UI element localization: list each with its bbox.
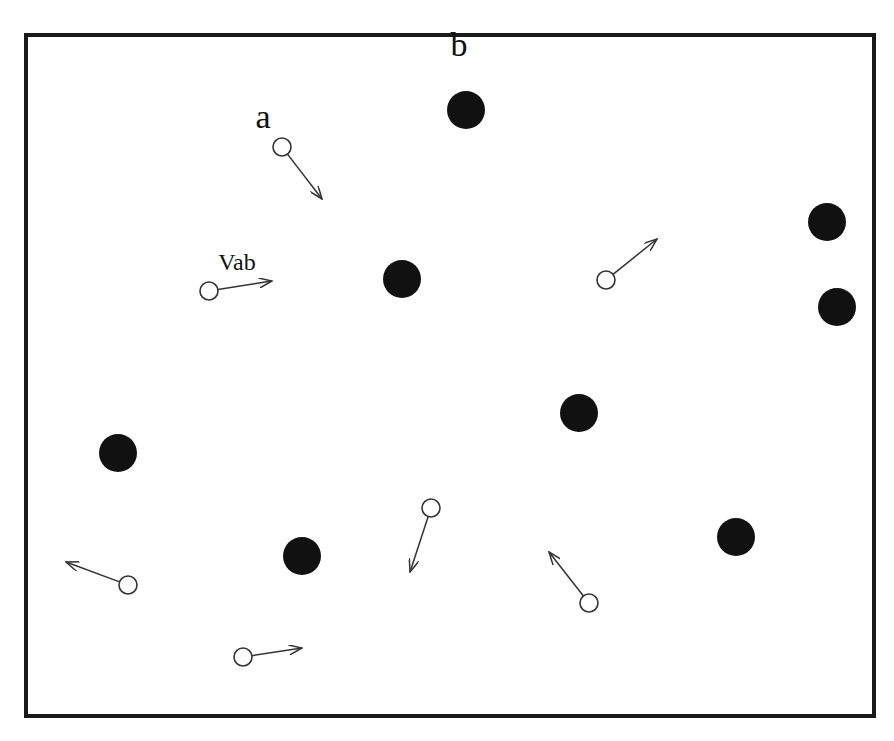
velocity-arrow-icon [287,154,322,199]
velocity-arrow-icon [252,648,302,656]
solid-particle [283,537,321,575]
label-b: b [451,26,468,63]
solid-particle [447,91,485,129]
velocity-arrow-icon [549,552,583,596]
diagram-labels: a b Vab [218,26,467,275]
solid-particle [99,434,137,472]
hollow-particle [580,594,598,612]
solid-particles [99,91,856,575]
velocity-arrow-icon [218,281,272,290]
hollow-particle [119,576,137,594]
solid-particle [383,260,421,298]
hollow-particle [234,648,252,666]
hollow-particle [597,271,615,289]
solid-particle [560,394,598,432]
hollow-particle [273,138,291,156]
solid-particle [808,203,846,241]
solid-particle [818,288,856,326]
hollow-particle [200,282,218,300]
diagram-frame [26,35,874,716]
hollow-particle [422,499,440,517]
label-a: a [255,98,270,135]
solid-particle [717,518,755,556]
velocity-arrow-icon [410,517,428,572]
velocity-arrow-icon [613,239,657,274]
velocity-arrow-icon [66,562,120,582]
label-vab: Vab [218,249,255,275]
particle-diagram: a b Vab [0,0,894,741]
